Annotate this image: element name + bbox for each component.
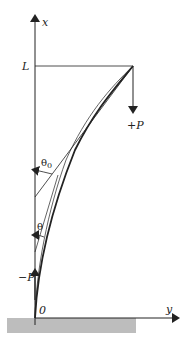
origin-label: 0: [39, 304, 46, 317]
negative-load-label: −P: [18, 271, 35, 284]
length-label: L: [21, 60, 29, 73]
theta0-label: θ0: [41, 157, 52, 170]
theta0-arc: [35, 170, 52, 174]
theta-label: θ: [37, 221, 43, 232]
ground-block: [7, 318, 136, 333]
cantilever-diagram: x L +P θ0 θ −P 0 y: [0, 0, 187, 349]
x-axis-label: x: [42, 16, 49, 29]
deflected-beam-outline: [35, 66, 133, 318]
positive-load-label: +P: [127, 119, 144, 132]
y-axis-label: y: [165, 303, 173, 316]
deflected-beam: [35, 66, 133, 318]
